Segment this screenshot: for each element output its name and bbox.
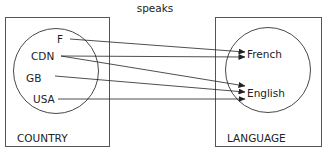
relation-arrows <box>55 39 245 99</box>
country-caption: COUNTRY <box>17 132 68 144</box>
relation-title: speaks <box>137 2 174 14</box>
language-element-french: French <box>247 48 282 60</box>
relation-diagram: speaks F CDN GB USA COUNTRY French Engli… <box>0 0 325 155</box>
language-caption: LANGUAGE <box>227 132 286 144</box>
language-box <box>216 18 322 147</box>
language-circle <box>226 28 311 113</box>
arrow-cdn-english <box>61 56 245 86</box>
country-set: F CDN GB USA COUNTRY <box>6 18 110 147</box>
language-set: French English LANGUAGE <box>216 18 322 147</box>
country-element-usa: USA <box>33 93 56 105</box>
arrow-cdn-french <box>61 56 245 57</box>
arrow-gb-english <box>55 76 245 92</box>
country-element-cdn: CDN <box>31 50 54 62</box>
arrow-f-french <box>70 39 245 52</box>
language-element-english: English <box>247 87 285 99</box>
country-element-f: F <box>57 33 63 45</box>
country-circle <box>14 29 99 114</box>
country-element-gb: GB <box>26 72 41 84</box>
